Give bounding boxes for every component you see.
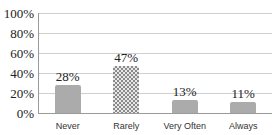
bar-always [230,102,256,113]
bar-rarely [113,66,139,113]
y-tick-label: 40% [0,67,34,80]
gridline [38,33,272,34]
data-label: 11% [218,87,268,100]
y-tick-label: 0% [0,107,34,120]
gridline [38,13,272,14]
data-label: 47% [101,51,151,64]
y-tick-label: 20% [0,87,34,100]
y-axis [38,13,39,114]
x-tick-label: Always [208,121,277,131]
x-axis [38,113,272,114]
y-tick-label: 80% [0,27,34,40]
data-label: 28% [43,70,93,83]
data-label: 13% [160,85,210,98]
bar-very-often [172,100,198,113]
y-tick-label: 60% [0,47,34,60]
bar-chart: 100% 80% 60% 40% 20% 0% 28%Never47%Rarel… [0,0,277,135]
gridline [38,53,272,54]
bar-never [55,85,81,113]
y-tick-label: 100% [0,7,34,20]
